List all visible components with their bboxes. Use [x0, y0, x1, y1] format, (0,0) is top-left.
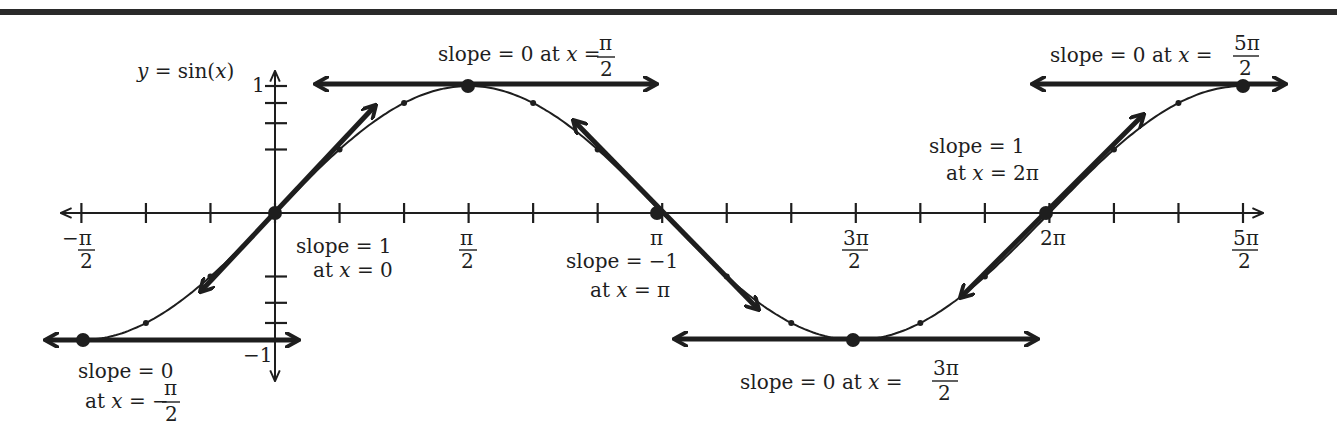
x-tick-label-5pi-over-2: 5π 2	[1232, 226, 1259, 273]
curve-dot	[401, 100, 407, 106]
x-tick-label-pi: π	[650, 226, 663, 250]
annotation-line: at x = π	[590, 278, 670, 302]
frac-den: 2	[600, 57, 613, 81]
annotation-line: slope = 0 at x =	[438, 42, 601, 66]
x-tick-label-2pi: 2π	[1040, 226, 1066, 250]
annotation-line: at x = 0	[313, 258, 393, 282]
sine-graph: y = sin(x) 1 −1 −π 2 π 2 π 3π 2 2π 5π 2 …	[0, 0, 1337, 443]
annotation-slope-0-at-3pi-over-2: slope = 0 at x = 3π 2	[740, 356, 959, 405]
annotation-line: slope = −1	[566, 249, 678, 273]
frac-den: 2	[165, 402, 178, 426]
y-tick-label-1: 1	[252, 73, 265, 97]
point-neg-pi-over-2	[76, 333, 90, 347]
annotation-line: slope = 0	[78, 359, 174, 383]
x-tick-den: 2	[848, 249, 861, 273]
point-3pi-over-2	[846, 333, 860, 347]
annotation-slope-1-at-2pi: slope = 1 at x = 2π	[929, 134, 1039, 185]
frac-num: π	[164, 376, 177, 400]
x-tick-num: π	[460, 226, 473, 250]
annotation-line: at x = 2π	[946, 161, 1039, 185]
x-tick-den: 2	[80, 249, 93, 273]
annotation-slope-0-at-5pi-over-2: slope = 0 at x = 5π 2	[1050, 31, 1260, 80]
x-tick-den: 2	[1238, 249, 1251, 273]
annotation-slope-0-at-pi-over-2: slope = 0 at x = π 2	[438, 31, 615, 81]
point-pi-over-2	[461, 79, 475, 93]
frac-num: 5π	[1234, 31, 1260, 55]
point-5pi-over-2	[1236, 79, 1250, 93]
frac-num: π	[599, 31, 612, 55]
point-pi	[650, 206, 664, 220]
point-2pi	[1039, 206, 1053, 220]
frac-den: 2	[1239, 56, 1252, 80]
annotation-line: slope = 1	[929, 134, 1025, 158]
curve-dot	[530, 100, 536, 106]
curve-dot	[788, 320, 794, 326]
point-0	[268, 206, 282, 220]
x-tick-label-neg-pi-over-2: −π 2	[62, 226, 95, 273]
x-tick-den: 2	[461, 249, 474, 273]
y-tick-label-neg1: −1	[243, 343, 272, 367]
annotation-line: slope = 0 at x =	[740, 370, 903, 394]
frac-den: 2	[938, 381, 951, 405]
x-tick-num: −π	[62, 226, 92, 250]
curve-dot	[917, 320, 923, 326]
curve-dot	[143, 320, 149, 326]
annotation-slope-neg1-at-pi: slope = −1 at x = π	[566, 249, 678, 302]
function-title: y = sin(x)	[136, 59, 234, 83]
x-tick-num: 3π	[843, 226, 869, 250]
annotation-line: slope = 1	[296, 234, 392, 258]
annotation-line: at x = −	[85, 389, 169, 413]
x-tick-num: 5π	[1233, 226, 1259, 250]
x-tick-label-3pi-over-2: 3π 2	[842, 226, 869, 273]
annotation-line: slope = 0 at x =	[1050, 43, 1213, 67]
annotation-slope-1-at-0: slope = 1 at x = 0	[296, 234, 393, 282]
curve-dot	[1175, 100, 1181, 106]
frac-num: 3π	[933, 356, 959, 380]
x-tick-label-pi-over-2: π 2	[459, 226, 477, 273]
annotation-slope-0-at-neg-pi-over-2: slope = 0 at x = − π 2	[78, 359, 180, 426]
